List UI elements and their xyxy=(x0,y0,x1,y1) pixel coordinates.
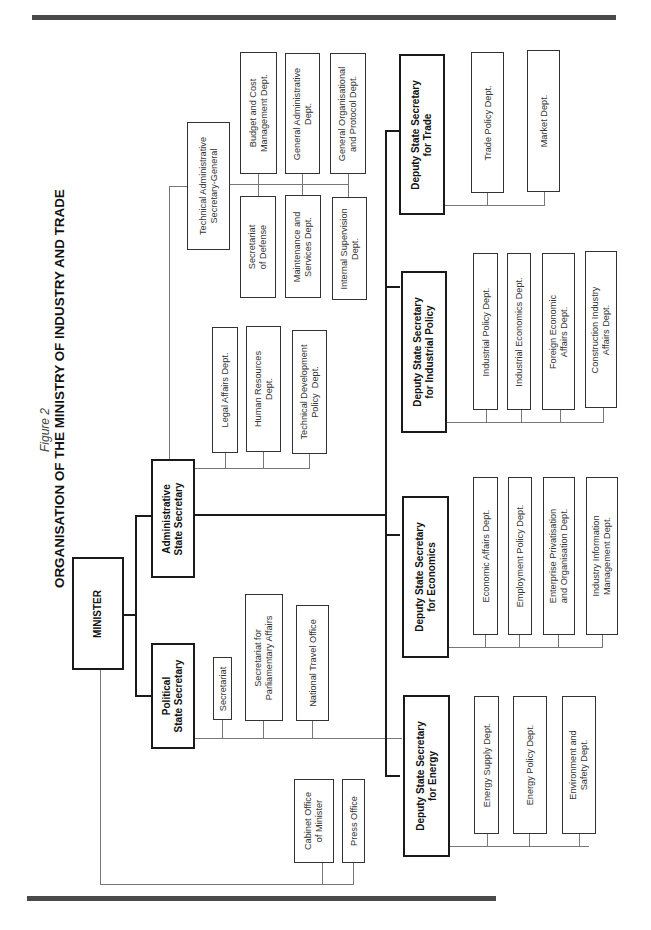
market-box: Market Dept. xyxy=(527,50,560,192)
technical-admin-secretary-general-box: Technical Administrative Secretary-Gener… xyxy=(187,122,230,250)
national-travel-office-box: National Travel Office xyxy=(296,605,329,721)
general-administrative-box: General Administrative Dept. xyxy=(285,53,320,174)
bottom-rule xyxy=(27,896,496,901)
connector xyxy=(385,534,400,536)
secretariat-box: Secretariat xyxy=(213,657,232,720)
connector xyxy=(529,833,530,846)
energy-policy-box: Energy Policy Dept. xyxy=(513,696,547,834)
connector xyxy=(322,862,323,884)
deputy-economics-box: Deputy State Secretary for Economics xyxy=(402,496,449,658)
unit-label: Internal Supervision Dept. xyxy=(339,208,361,289)
unit-label: Secretariat xyxy=(217,666,228,710)
connector xyxy=(194,738,402,739)
connector xyxy=(225,452,226,468)
unit-label: Legal Affairs Dept. xyxy=(220,353,231,428)
connector xyxy=(309,452,310,468)
connector xyxy=(445,422,604,423)
deputy-energy-box: Deputy State Secretary for Energy xyxy=(403,695,450,857)
technical-development-policy-box: Technical Development Policy Dept. xyxy=(292,330,327,454)
unit-label: Technical Development Policy Dept. xyxy=(299,345,321,440)
unit-label: National Travel Office xyxy=(307,619,318,707)
minister-box: MINISTER xyxy=(72,557,124,670)
unit-label: Economic Affairs Dept. xyxy=(480,510,491,603)
unit-label: Trade Policy Dept. xyxy=(482,85,493,160)
chart-title: ORGANISATION OF THE MINISTRY OF INDUSTRY… xyxy=(52,189,67,588)
general-organisational-box: General Organisational and Protocol Dept… xyxy=(330,53,366,174)
unit-label: Cabinet Office of Minister xyxy=(303,792,325,850)
human-resources-box: Human Resources Dept. xyxy=(246,326,281,452)
connector xyxy=(135,515,137,696)
connector xyxy=(603,407,604,422)
unit-label: General Administrative Dept. xyxy=(292,67,314,159)
connector xyxy=(385,130,387,776)
connector xyxy=(312,720,313,738)
connector xyxy=(348,174,349,197)
connector xyxy=(487,833,488,846)
deputy-label: Deputy State Secretary for Industrial Po… xyxy=(412,297,436,407)
unit-label: Industry Information Management Dept. xyxy=(591,515,613,596)
unit-label: Industrial Policy Dept. xyxy=(480,287,491,376)
environment-safety-box: Environment and Safety Dept. xyxy=(562,696,596,834)
maintenance-services-box: Maintenance and Services Dept. xyxy=(285,195,321,298)
administrative-state-secretary-box: Administrative State Secretary xyxy=(151,459,195,578)
unit-label: Press Office xyxy=(348,796,359,846)
energy-supply-box: Energy Supply Dept. xyxy=(474,696,499,834)
connector xyxy=(579,833,580,846)
internal-supervision-box: Internal Supervision Dept. xyxy=(332,197,367,300)
unit-label: Market Dept. xyxy=(538,95,549,148)
connector xyxy=(385,775,400,777)
political-state-secretary-label: Political State Secretary xyxy=(161,660,185,733)
deputy-label: Deputy State Secretary for Energy xyxy=(415,721,439,831)
unit-label: Enterprise Privatisation and Organisatio… xyxy=(548,509,570,604)
connector xyxy=(302,174,303,197)
connector xyxy=(263,720,264,738)
unit-label: Environment and Safety Dept. xyxy=(568,730,590,799)
connector xyxy=(135,695,152,697)
press-office-box: Press Office xyxy=(342,779,365,863)
employment-policy-box: Employment Policy Dept. xyxy=(508,477,532,635)
trade-policy-box: Trade Policy Dept. xyxy=(471,52,504,193)
connector xyxy=(560,409,561,422)
figure-label: Figure 2 xyxy=(38,408,52,452)
unit-label: Technical Administrative Secretary-Gener… xyxy=(198,137,220,235)
connector xyxy=(100,884,354,885)
unit-label: Budget and Cost Management Dept. xyxy=(248,74,270,152)
unit-label: Construction Industry Affairs Dept. xyxy=(590,286,612,373)
minister-label: MINISTER xyxy=(92,590,104,638)
connector xyxy=(169,186,187,187)
connector xyxy=(263,452,264,468)
deputy-label: Deputy State Secretary for Economics xyxy=(414,522,438,632)
connector xyxy=(485,634,486,647)
legal-affairs-box: Legal Affairs Dept. xyxy=(212,327,238,453)
connector xyxy=(385,130,400,132)
connector xyxy=(353,862,354,884)
unit-label: Foreign Economic Affairs Dept. xyxy=(548,294,570,368)
industry-information-box: Industry Information Management Dept. xyxy=(586,477,618,635)
connector xyxy=(194,514,387,516)
unit-label: Secretariat of Defense xyxy=(247,225,269,269)
connector xyxy=(487,192,488,205)
secretariat-parliamentary-box: Secretariat for Parliamentary Affairs xyxy=(245,594,283,721)
deputy-trade-box: Deputy State Secretary for Trade xyxy=(399,54,445,215)
deputy-label: Deputy State Secretary for Trade xyxy=(410,80,434,190)
connector xyxy=(486,409,487,422)
connector xyxy=(521,409,522,422)
connector xyxy=(385,286,400,288)
connector xyxy=(222,720,223,738)
top-rule xyxy=(32,15,616,20)
deputy-industrial-policy-box: Deputy State Secretary for Industrial Po… xyxy=(401,271,447,433)
budget-cost-box: Budget and Cost Management Dept. xyxy=(240,52,277,174)
unit-label: Secretariat for Parliamentary Affairs xyxy=(253,615,275,700)
unit-label: Employment Policy Dept. xyxy=(515,505,526,608)
connector xyxy=(444,205,545,206)
connector xyxy=(100,670,101,885)
connector xyxy=(519,634,520,647)
connector xyxy=(229,184,349,185)
connector xyxy=(449,846,589,847)
connector xyxy=(258,174,259,197)
enterprise-privatisation-box: Enterprise Privatisation and Organisatio… xyxy=(543,477,575,635)
unit-label: Industrial Economics Dept. xyxy=(514,277,525,386)
economic-affairs-box: Economic Affairs Dept. xyxy=(473,477,498,635)
unit-label: Maintenance and Services Dept. xyxy=(292,211,314,282)
connector xyxy=(447,647,603,648)
